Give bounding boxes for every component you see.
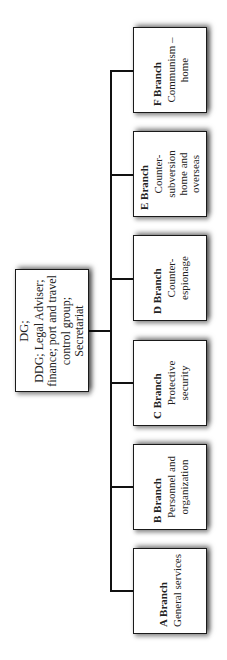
connector-a-branch <box>111 590 133 592</box>
connector-d-branch <box>111 278 133 280</box>
branch-description: General services <box>171 551 183 631</box>
root-description: DDG; Legal Adviser; finance; port and tr… <box>33 272 87 390</box>
branch-title: F Branch <box>151 30 163 110</box>
branch-description: Protective security <box>165 354 190 412</box>
branch-title: B Branch <box>151 447 163 527</box>
root-title: DG; <box>17 272 31 390</box>
node-f-branch: F Branch Communism – home <box>133 27 207 113</box>
branch-description: Counter-espionage <box>165 252 190 304</box>
node-a-branch: A Branch General services <box>133 548 207 634</box>
branch-title: D Branch <box>151 238 163 318</box>
connector-c-branch <box>111 382 133 384</box>
node-b-branch: B Branch Personnel and organization <box>133 444 207 530</box>
connector-b-branch <box>111 486 133 488</box>
branch-description: Communism – home <box>165 30 190 110</box>
root-node-dg: DG; DDG; Legal Adviser; finance; port an… <box>15 269 89 392</box>
branch-title: C Branch <box>151 343 163 423</box>
branch-description: Personnel and organization <box>165 449 190 525</box>
connector-f-branch <box>111 70 133 72</box>
node-c-branch: C Branch Protective security <box>133 340 207 426</box>
branch-title: E Branch <box>138 134 150 214</box>
node-d-branch: D Branch Counter-espionage <box>133 235 207 321</box>
connector-e-branch <box>111 174 133 176</box>
branch-title: A Branch <box>157 551 169 631</box>
branch-description: Counter-subversion home and overseas <box>153 145 202 203</box>
org-chart: DG; DDG; Legal Adviser; finance; port an… <box>0 0 227 660</box>
root-connector-line <box>89 330 111 332</box>
node-e-branch: E Branch Counter-subversion home and ove… <box>133 131 207 217</box>
